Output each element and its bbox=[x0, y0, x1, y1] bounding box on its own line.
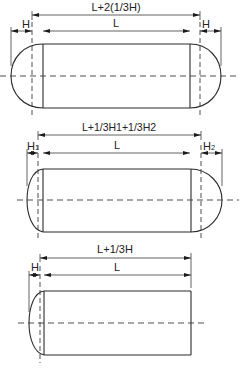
left-head-label: H bbox=[22, 18, 30, 30]
length-label: L bbox=[114, 139, 120, 151]
overall-length-label: L+1/3H1+1/3H2 bbox=[82, 121, 156, 133]
diagram-one-head: L+1/3H L H bbox=[18, 243, 205, 363]
overall-length-label: L+1/3H bbox=[97, 243, 133, 255]
length-label: L bbox=[114, 261, 120, 273]
left-head-label: H bbox=[31, 261, 39, 273]
overall-length-label: L+2(1/3H) bbox=[91, 1, 140, 13]
right-head-label: H bbox=[202, 18, 210, 30]
left-head-label: H1 bbox=[27, 140, 39, 152]
right-head-label: H2 bbox=[203, 140, 215, 152]
tank-dimension-drawing: L+2(1/3H) L H H L+1/3H1+1/3H2 bbox=[0, 0, 239, 370]
diagram-two-unequal-heads: L+1/3H1+1/3H2 L H1 H2 bbox=[17, 121, 239, 240]
left-head bbox=[27, 169, 43, 232]
length-label: L bbox=[113, 17, 119, 29]
diagram-two-equal-heads: L+2(1/3H) L H H bbox=[0, 1, 239, 116]
right-head bbox=[190, 169, 222, 232]
